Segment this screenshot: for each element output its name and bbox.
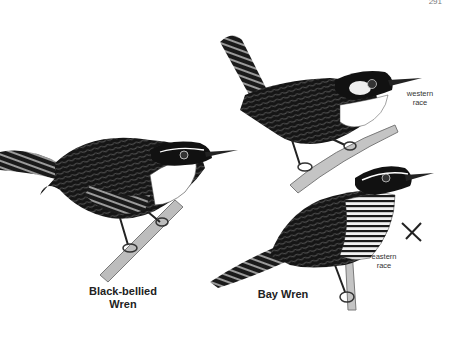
illustrations xyxy=(0,0,458,340)
black-bellied-wren-label-line1: Black-bellied xyxy=(76,285,170,298)
cross-mark-icon xyxy=(402,223,421,241)
western-race-label-line2: race xyxy=(398,99,442,108)
western-race-label: western race xyxy=(398,90,442,107)
eastern-race-label-line2: race xyxy=(362,262,406,271)
black-bellied-wren-illustration xyxy=(0,138,238,282)
field-guide-plate: 291 xyxy=(0,0,458,340)
black-bellied-wren-label-line2: Wren xyxy=(76,298,170,311)
bay-wren-label: Bay Wren xyxy=(248,288,318,301)
black-bellied-wren-label: Black-bellied Wren xyxy=(76,285,170,310)
bay-wren-eastern-race-illustration xyxy=(210,166,434,310)
eastern-race-label: eastern race xyxy=(362,253,406,270)
